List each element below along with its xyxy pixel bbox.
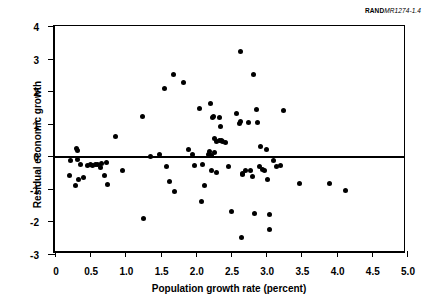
x-tick-mark: 0.5: [90, 251, 91, 257]
data-point: [113, 134, 118, 139]
data-point: [192, 163, 197, 168]
y-tick-mark: 3: [48, 59, 55, 60]
data-point: [265, 177, 270, 182]
data-point: [255, 120, 260, 125]
data-point: [190, 152, 195, 157]
data-point: [248, 168, 253, 173]
x-tick-label: 3.0: [260, 266, 274, 277]
y-tick-mark: -1: [48, 189, 55, 190]
data-point: [104, 160, 109, 165]
data-point: [75, 148, 80, 153]
data-point: [81, 175, 86, 180]
data-point: [141, 216, 146, 221]
data-point: [238, 119, 243, 124]
x-tick-label: 3.5: [295, 266, 309, 277]
data-point: [76, 177, 81, 182]
data-point: [102, 173, 107, 178]
data-point: [246, 120, 251, 125]
y-tick-mark: -2: [48, 221, 55, 222]
data-point: [223, 140, 228, 145]
data-point: [243, 168, 248, 173]
data-point: [281, 108, 286, 113]
x-tick-label: 4.5: [366, 266, 380, 277]
zero-reference-line: [55, 156, 404, 158]
x-tick-mark: 4.0: [337, 251, 338, 257]
data-point: [278, 163, 283, 168]
y-tick-label: -3: [30, 250, 39, 261]
data-point: [214, 170, 219, 175]
data-point: [120, 168, 125, 173]
x-tick-mark: 1.0: [125, 251, 126, 257]
y-tick-mark: 0: [48, 156, 55, 157]
x-tick-label: 1.5: [155, 266, 169, 277]
y-tick-label: 1: [33, 119, 39, 130]
data-point: [267, 227, 272, 232]
scatter-plot-figure: RANDMR1274-1.4 Residual economic growth …: [0, 0, 429, 305]
x-tick-label: 5.0: [401, 266, 415, 277]
data-point: [157, 152, 162, 157]
x-tick-mark: 4.5: [372, 251, 373, 257]
data-point: [209, 168, 214, 173]
y-tick-label: 4: [33, 22, 39, 33]
data-point: [211, 114, 216, 119]
x-tick-mark: 3.5: [301, 251, 302, 257]
data-point: [67, 173, 72, 178]
data-point: [251, 72, 256, 77]
x-tick-label: 0: [53, 266, 59, 277]
data-point: [73, 183, 78, 188]
y-tick-mark: 2: [48, 91, 55, 92]
y-tick-mark: 4: [48, 26, 55, 27]
data-point: [327, 181, 332, 186]
data-point: [167, 179, 172, 184]
data-point: [140, 114, 145, 119]
data-point: [343, 188, 348, 193]
x-tick-mark: 0: [55, 251, 56, 257]
data-point: [105, 182, 110, 187]
x-tick-label: 4.0: [331, 266, 345, 277]
data-point: [181, 80, 186, 85]
data-point: [234, 111, 239, 116]
x-tick-mark: 3.0: [266, 251, 267, 257]
data-point: [238, 49, 243, 54]
data-point: [297, 181, 302, 186]
y-tick-label: 3: [33, 54, 39, 65]
data-point: [202, 183, 207, 188]
source-note-brand: RAND: [365, 7, 384, 14]
data-point: [218, 124, 223, 129]
source-note: RANDMR1274-1.4: [365, 8, 421, 15]
y-tick-label: -1: [30, 184, 39, 195]
data-point: [68, 158, 73, 163]
data-point: [172, 189, 177, 194]
data-point: [271, 158, 276, 163]
y-tick-mark: -3: [48, 254, 55, 255]
data-point: [186, 147, 191, 152]
data-point: [226, 164, 231, 169]
data-point: [262, 168, 267, 173]
data-point: [164, 164, 169, 169]
data-point: [250, 174, 255, 179]
x-axis-title: Population growth rate (percent): [53, 283, 405, 294]
data-point: [252, 211, 257, 216]
y-tick-mark: 1: [48, 124, 55, 125]
x-tick-mark: 5.0: [407, 251, 408, 257]
x-tick-mark: 2.0: [196, 251, 197, 257]
data-point: [171, 72, 176, 77]
data-point: [199, 199, 204, 204]
data-point: [148, 154, 153, 159]
data-point: [239, 235, 244, 240]
data-point: [264, 147, 269, 152]
data-point: [254, 107, 259, 112]
data-point: [208, 101, 213, 106]
y-tick-label: -2: [30, 217, 39, 228]
data-point: [229, 209, 234, 214]
data-point: [162, 86, 167, 91]
source-note-code: MR1274-1.4: [384, 7, 421, 14]
x-tick-label: 2.0: [190, 266, 204, 277]
data-point: [258, 144, 263, 149]
x-tick-mark: 1.5: [161, 251, 162, 257]
data-point: [212, 150, 217, 155]
data-point: [78, 162, 83, 167]
data-point: [217, 115, 222, 120]
x-tick-label: 1.0: [119, 266, 133, 277]
data-point: [200, 162, 205, 167]
